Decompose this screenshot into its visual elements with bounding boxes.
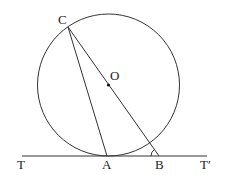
label-o: O xyxy=(110,68,119,83)
geometry-diagram: C O T A B T′ xyxy=(0,0,225,175)
label-t: T xyxy=(17,157,25,172)
label-a: A xyxy=(102,157,112,172)
label-t-prime: T′ xyxy=(200,157,211,172)
angle-mark-b xyxy=(151,150,154,157)
label-c: C xyxy=(58,12,67,27)
segment-cb xyxy=(68,27,159,156)
center-point-o xyxy=(107,83,110,86)
label-b: B xyxy=(155,157,164,172)
segment-ca xyxy=(68,27,107,156)
